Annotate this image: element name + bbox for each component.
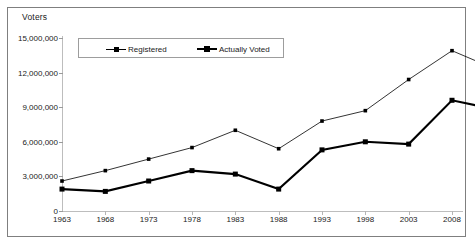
data-point-marker (60, 187, 65, 192)
legend-marker-actually-voted-icon (197, 44, 217, 54)
data-point-marker (450, 98, 455, 103)
data-point-marker (146, 179, 151, 184)
data-point-marker (450, 49, 454, 53)
data-point-marker (147, 157, 151, 161)
data-point-marker (406, 142, 411, 147)
data-point-marker (320, 119, 324, 123)
data-point-marker (276, 187, 281, 192)
data-point-marker (190, 146, 194, 150)
data-point-marker (233, 172, 238, 177)
data-point-marker (320, 147, 325, 152)
legend-item-registered: Registered (106, 43, 167, 55)
chart-legend: Registered Actually Voted (78, 38, 284, 58)
data-point-marker (103, 189, 108, 194)
data-point-marker (234, 128, 238, 132)
legend-item-actually-voted: Actually Voted (197, 43, 270, 55)
plot-area: 03,000,0006,000,0009,000,00012,000,00015… (0, 0, 475, 250)
legend-marker-registered-icon (106, 44, 126, 54)
series-line (62, 100, 475, 191)
data-point-marker (364, 109, 368, 113)
data-point-marker (104, 169, 108, 173)
data-point-marker (363, 139, 368, 144)
data-point-marker (60, 179, 64, 183)
series-actually-voted (60, 98, 475, 194)
chart-screenshot: Voters 03,000,0006,000,0009,000,00012,00… (0, 0, 475, 250)
data-point-marker (190, 168, 195, 173)
legend-label-actually-voted: Actually Voted (219, 45, 270, 54)
series-registered (60, 49, 475, 183)
legend-label-registered: Registered (128, 45, 167, 54)
data-point-marker (277, 147, 281, 151)
data-point-marker (407, 78, 411, 82)
series-line (62, 51, 475, 181)
